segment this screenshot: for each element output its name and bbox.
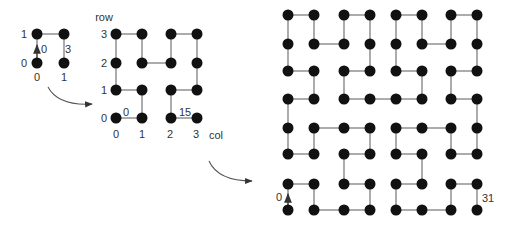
order3-node <box>283 149 294 160</box>
order1-col-label-1: 1 <box>61 72 67 83</box>
order2-node <box>111 113 122 124</box>
curved-arrow-icon <box>209 161 252 181</box>
order3-node <box>391 179 402 190</box>
order3-node <box>309 39 320 50</box>
order3-node <box>339 10 350 21</box>
diagram-canvas <box>0 0 511 226</box>
order3-node <box>365 205 376 216</box>
order3-node <box>365 179 376 190</box>
order3-node <box>283 66 294 77</box>
order2-node <box>192 58 203 69</box>
order3-node <box>391 10 402 21</box>
order1-node <box>59 58 70 69</box>
order2-node <box>111 29 122 40</box>
order2-node <box>111 58 122 69</box>
order3-node <box>391 123 402 134</box>
order3-node <box>339 39 350 50</box>
order1-row-label-0: 0 <box>21 58 27 69</box>
order3-node <box>339 66 350 77</box>
order3-node <box>446 179 457 190</box>
order3-node <box>417 205 428 216</box>
order3-node <box>283 123 294 134</box>
order3-node <box>283 39 294 50</box>
order3-node <box>365 39 376 50</box>
order1-end-index: 3 <box>65 44 71 55</box>
order3-start-index: 0 <box>276 192 282 203</box>
order3-node <box>365 66 376 77</box>
order3-end-index: 31 <box>482 193 494 204</box>
order3-node <box>309 94 320 105</box>
order3-node <box>283 94 294 105</box>
order3-node <box>417 94 428 105</box>
order3-node <box>339 94 350 105</box>
order3-node <box>391 39 402 50</box>
order3-node <box>339 205 350 216</box>
order3-node <box>472 179 483 190</box>
order2-node <box>166 58 177 69</box>
order3-node <box>283 10 294 21</box>
order3-node <box>365 149 376 160</box>
order3-node <box>365 123 376 134</box>
hilbert-curve-diagram: 0 1 0 1 0 3 row 0 1 2 3 0 1 2 3 col 0 15… <box>0 0 511 226</box>
order3-node <box>391 205 402 216</box>
order3-node <box>472 66 483 77</box>
curved-arrow-icon <box>48 87 92 104</box>
order2-col-axis-label: col <box>209 130 223 141</box>
order2-row-axis-label: row <box>95 12 113 23</box>
order2-start-index: 0 <box>123 107 129 118</box>
order3-node <box>417 66 428 77</box>
order3-node <box>309 123 320 134</box>
order2-node <box>166 113 177 124</box>
order2-node <box>111 85 122 96</box>
order2-node <box>192 113 203 124</box>
order2-col-label-3: 3 <box>193 129 199 140</box>
order2-node <box>137 29 148 40</box>
order3-node <box>283 179 294 190</box>
order2-node <box>137 85 148 96</box>
order1-col-label-0: 0 <box>34 72 40 83</box>
order3-node <box>309 66 320 77</box>
order3-node <box>417 149 428 160</box>
order1-row-label-1: 1 <box>21 29 27 40</box>
order3-node <box>283 205 294 216</box>
order3-node <box>309 10 320 21</box>
order3-node <box>309 149 320 160</box>
order2-node <box>192 29 203 40</box>
order1-node <box>59 29 70 40</box>
order3-node <box>309 179 320 190</box>
order1-start-index: 0 <box>41 44 47 55</box>
order3-node <box>417 123 428 134</box>
order3-node <box>417 10 428 21</box>
order3-node <box>309 205 320 216</box>
order3-node <box>446 94 457 105</box>
order1-node <box>32 58 43 69</box>
order3-node <box>472 123 483 134</box>
order2-row-label-2: 2 <box>101 58 107 69</box>
order3-node <box>472 10 483 21</box>
order3-node <box>417 39 428 50</box>
order2-node <box>166 29 177 40</box>
order3-node <box>446 205 457 216</box>
order3-node <box>365 10 376 21</box>
order3-node <box>446 149 457 160</box>
order2-node <box>137 113 148 124</box>
order3-node <box>472 205 483 216</box>
order2-row-label-1: 1 <box>101 85 107 96</box>
order3-node <box>339 123 350 134</box>
order3-node <box>472 149 483 160</box>
order3-node <box>391 66 402 77</box>
order2-col-label-2: 2 <box>167 129 173 140</box>
order-3-curve <box>283 10 483 216</box>
order2-node <box>166 85 177 96</box>
order3-node <box>446 10 457 21</box>
order2-end-index: 15 <box>179 107 191 118</box>
order2-node <box>192 85 203 96</box>
order3-node <box>391 94 402 105</box>
order2-col-label-0: 0 <box>113 129 119 140</box>
order3-node <box>339 149 350 160</box>
order3-node <box>365 94 376 105</box>
order3-node <box>339 179 350 190</box>
order3-node <box>417 179 428 190</box>
order2-node <box>137 58 148 69</box>
order3-node <box>446 66 457 77</box>
